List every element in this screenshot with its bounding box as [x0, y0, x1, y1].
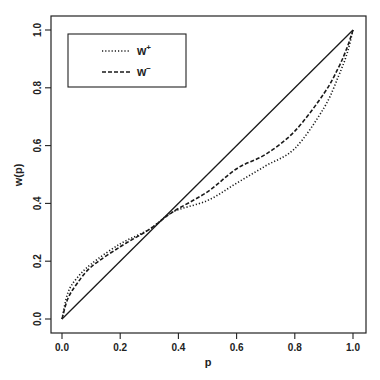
y-tick-label: 0.8 — [32, 80, 43, 94]
y-axis: 0.00.20.40.60.81.0 — [32, 23, 51, 326]
y-tick-label: 0.0 — [32, 312, 43, 326]
y-tick-label: 0.4 — [32, 196, 43, 210]
x-axis: 0.00.20.40.60.81.0 — [55, 333, 360, 353]
x-tick-label: 0.8 — [288, 342, 302, 353]
y-tick-label: 0.6 — [32, 138, 43, 152]
x-axis-title: p — [205, 356, 212, 368]
y-tick-label: 1.0 — [32, 23, 43, 37]
probability-weighting-chart: 0.00.20.40.60.81.0 0.00.20.40.60.81.0 p … — [0, 0, 380, 380]
y-tick-label: 0.2 — [32, 254, 43, 268]
x-tick-label: 0.2 — [113, 342, 127, 353]
x-tick-label: 0.0 — [55, 342, 69, 353]
x-tick-label: 1.0 — [346, 342, 360, 353]
x-tick-label: 0.4 — [171, 342, 185, 353]
x-tick-label: 0.6 — [230, 342, 244, 353]
legend: w+ w− — [68, 34, 186, 87]
legend-box — [68, 34, 186, 87]
y-axis-title: w(p) — [12, 163, 24, 187]
